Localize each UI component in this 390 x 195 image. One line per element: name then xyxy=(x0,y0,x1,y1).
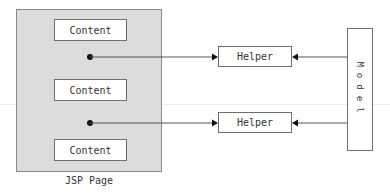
arrowhead-icon xyxy=(212,54,218,61)
arrowhead-icon xyxy=(292,120,298,127)
connector-lines xyxy=(0,0,390,195)
arrowhead-icon xyxy=(212,120,218,127)
arrowhead-icon xyxy=(292,54,298,61)
